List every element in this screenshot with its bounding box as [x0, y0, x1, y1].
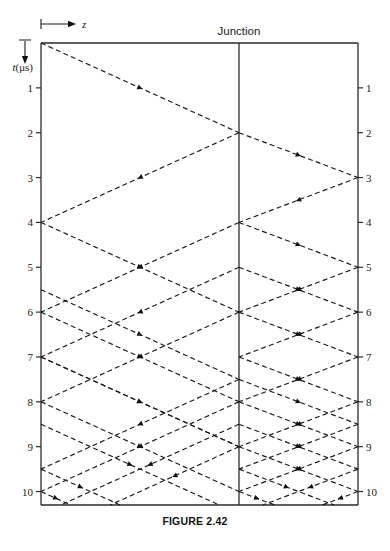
- time-axis-label: t(μs): [12, 61, 33, 74]
- right-tick-label: 8: [366, 396, 372, 408]
- bounce-diagram: zJunction 1122334455667788991010t(μs): [0, 0, 390, 551]
- z-direction-arrow-shaft: [41, 19, 69, 29]
- z-axis-label: z: [81, 18, 87, 30]
- wave-direction-arrow: [138, 309, 144, 314]
- axis-ticks: [36, 88, 363, 492]
- left-tick-label: 10: [22, 486, 34, 498]
- left-tick-label: 9: [28, 441, 34, 453]
- wave-direction-arrow: [137, 331, 143, 336]
- right-tick-label: 10: [366, 486, 378, 498]
- left-tick-label: 5: [28, 261, 34, 273]
- wave-direction-arrow: [137, 398, 143, 403]
- wave-direction-arrow: [138, 174, 144, 179]
- wave-direction-arrow: [283, 484, 289, 489]
- left-tick-label: 2: [28, 127, 34, 139]
- right-tick-label: 6: [366, 306, 372, 318]
- wave-direction-arrow: [308, 484, 314, 489]
- left-tick-label: 3: [28, 172, 34, 184]
- wave-direction-arrow: [77, 484, 83, 489]
- right-tick-label: 2: [366, 127, 372, 139]
- plot-border: [41, 43, 358, 505]
- time-direction-arrow-shaft: [19, 40, 31, 58]
- plot-frame: [41, 43, 358, 505]
- z-direction-arrowhead: [68, 21, 76, 27]
- left-tick-label: 7: [28, 351, 34, 363]
- axis-annotations: zJunction: [19, 18, 260, 64]
- wave-direction-arrow: [137, 84, 143, 89]
- figure-root: zJunction 1122334455667788991010t(μs) FI…: [0, 0, 390, 551]
- left-tick-label: 8: [28, 396, 34, 408]
- wave-paths: [41, 43, 358, 505]
- right-tick-label: 9: [366, 441, 372, 453]
- left-tick-label: 6: [28, 306, 34, 318]
- right-tick-label: 7: [366, 351, 372, 363]
- right-tick-label: 4: [366, 216, 372, 228]
- figure-caption: FIGURE 2.42: [0, 515, 390, 527]
- wave-direction-arrow: [138, 421, 144, 426]
- left-tick-label: 4: [28, 216, 34, 228]
- axis-text: 1122334455667788991010t(μs): [12, 61, 377, 498]
- right-tick-label: 1: [366, 82, 372, 94]
- right-tick-label: 5: [366, 261, 372, 273]
- left-tick-label: 1: [28, 82, 34, 94]
- right-tick-label: 3: [366, 172, 372, 184]
- junction-label: Junction: [218, 25, 261, 37]
- wave-direction-arrow: [52, 495, 58, 500]
